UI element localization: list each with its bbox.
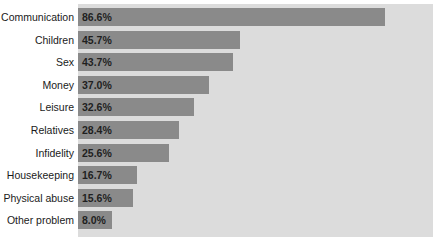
category-label: Physical abuse: [0, 189, 74, 207]
category-label: Children: [0, 31, 74, 49]
bar-container: 37.0%: [78, 76, 433, 94]
bar-value-label: 16.7%: [82, 166, 112, 184]
bar-row: Children45.7%: [0, 31, 441, 49]
bar-container: 15.6%: [78, 189, 433, 207]
category-label: Other problem: [0, 211, 74, 229]
bar-rows: Communication86.6%Children45.7%Sex43.7%M…: [0, 0, 441, 242]
category-label: Housekeeping: [0, 166, 74, 184]
bar-container: 25.6%: [78, 144, 433, 162]
bar-row: Communication86.6%: [0, 8, 441, 26]
bar-value-label: 8.0%: [82, 211, 106, 229]
bar-row: Leisure32.6%: [0, 98, 441, 116]
category-label: Relatives: [0, 121, 74, 139]
bar-container: 16.7%: [78, 166, 433, 184]
bar: [78, 8, 385, 26]
bar-row: Sex43.7%: [0, 53, 441, 71]
bar-value-label: 15.6%: [82, 189, 112, 207]
bar-row: Relatives28.4%: [0, 121, 441, 139]
category-label: Communication: [0, 8, 74, 26]
bar-container: 28.4%: [78, 121, 433, 139]
category-label: Sex: [0, 53, 74, 71]
category-label: Money: [0, 76, 74, 94]
category-label: Infidelity: [0, 144, 74, 162]
bar-container: 43.7%: [78, 53, 433, 71]
bar-container: 8.0%: [78, 211, 433, 229]
bar-chart: Communication86.6%Children45.7%Sex43.7%M…: [0, 0, 441, 242]
category-label: Leisure: [0, 98, 74, 116]
bar-value-label: 37.0%: [82, 76, 112, 94]
bar-value-label: 32.6%: [82, 98, 112, 116]
bar-row: Money37.0%: [0, 76, 441, 94]
bar-row: Other problem8.0%: [0, 211, 441, 229]
bar-value-label: 86.6%: [82, 8, 112, 26]
bar-row: Physical abuse15.6%: [0, 189, 441, 207]
bar-value-label: 43.7%: [82, 53, 112, 71]
bar-value-label: 45.7%: [82, 31, 112, 49]
bar-container: 32.6%: [78, 98, 433, 116]
bar-container: 86.6%: [78, 8, 433, 26]
bar-row: Housekeeping16.7%: [0, 166, 441, 184]
bar-container: 45.7%: [78, 31, 433, 49]
bar-value-label: 25.6%: [82, 144, 112, 162]
bar-value-label: 28.4%: [82, 121, 112, 139]
bar-row: Infidelity25.6%: [0, 144, 441, 162]
